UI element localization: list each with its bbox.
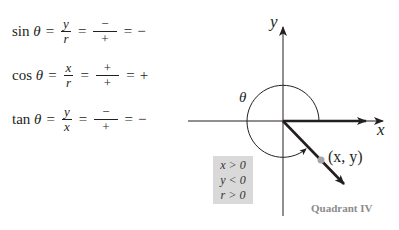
condition-y: y < 0 (213, 173, 253, 188)
x-axis-label: x (377, 120, 385, 140)
sign-conditions-box: x > 0 y < 0 r > 0 (213, 156, 253, 204)
condition-x: x > 0 (213, 158, 253, 173)
coordinate-diagram (0, 0, 399, 230)
point-marker (318, 157, 325, 164)
theta-label: θ (239, 89, 246, 106)
quadrant-label: Quadrant IV (311, 202, 372, 214)
y-axis-label: y (270, 12, 278, 32)
condition-r: r > 0 (213, 188, 253, 203)
point-label: (x, y) (328, 148, 363, 166)
